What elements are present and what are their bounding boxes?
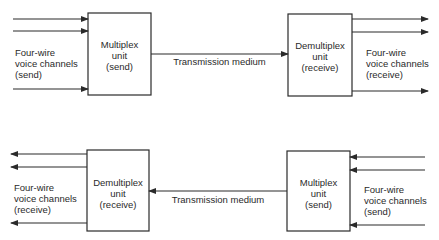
bottom-right-channels-label: Four-wire voice channels (send) bbox=[364, 184, 427, 217]
multiplex-diagram: Four-wire voice channels (send) Multiple… bbox=[0, 0, 439, 240]
label-line: Four-wire bbox=[364, 184, 427, 195]
label-line: Four-wire bbox=[14, 182, 77, 193]
label-line: Multiplex bbox=[88, 39, 151, 50]
top-multiplex-label: Multiplex unit (send) bbox=[88, 39, 151, 72]
label-line: voice channels bbox=[364, 195, 427, 206]
label-line: unit bbox=[288, 51, 352, 62]
label-line: unit bbox=[287, 188, 350, 199]
top-left-channels-label: Four-wire voice channels (send) bbox=[15, 47, 78, 80]
label-line: Demultiplex bbox=[87, 177, 149, 188]
label-line: unit bbox=[87, 188, 149, 199]
bottom-left-channels-label: Four-wire voice channels (receive) bbox=[14, 182, 77, 215]
label-line: (receive) bbox=[14, 204, 77, 215]
label-line: (send) bbox=[287, 199, 350, 210]
bottom-demultiplex-label: Demultiplex unit (receive) bbox=[87, 177, 149, 210]
label-line: (send) bbox=[15, 69, 78, 80]
label-line: Four-wire bbox=[15, 47, 78, 58]
bottom-multiplex-label: Multiplex unit (send) bbox=[287, 177, 350, 210]
label-line: Multiplex bbox=[287, 177, 350, 188]
label-line: (send) bbox=[88, 61, 151, 72]
label-line: voice channels bbox=[14, 193, 77, 204]
label-line: Four-wire bbox=[366, 47, 429, 58]
top-medium-label: Transmission medium bbox=[151, 56, 288, 67]
bottom-medium-label: Transmission medium bbox=[149, 194, 287, 205]
label-line: (receive) bbox=[288, 62, 352, 73]
label-line: voice channels bbox=[15, 58, 78, 69]
top-right-channels-label: Four-wire voice channels (receive) bbox=[366, 47, 429, 80]
label-line: voice channels bbox=[366, 58, 429, 69]
label-line: (send) bbox=[364, 206, 427, 217]
label-line: (receive) bbox=[87, 199, 149, 210]
label-line: (receive) bbox=[366, 69, 429, 80]
label-line: unit bbox=[88, 50, 151, 61]
top-demultiplex-label: Demultiplex unit (receive) bbox=[288, 40, 352, 73]
label-line: Demultiplex bbox=[288, 40, 352, 51]
